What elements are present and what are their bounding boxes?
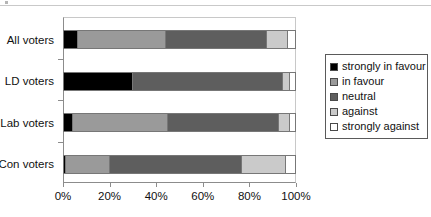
legend-swatch-icon — [330, 93, 338, 101]
legend-label: strongly against — [342, 120, 419, 133]
y-axis-tick — [58, 100, 63, 101]
x-axis-tick — [156, 183, 157, 187]
x-axis-tick — [296, 183, 297, 187]
chart-legend: strongly in favourin favourneutralagains… — [325, 54, 428, 139]
y-axis-tick — [58, 59, 63, 60]
y-axis-label: All voters — [0, 34, 54, 46]
legend-item: strongly against — [330, 119, 424, 134]
y-axis-label: Con voters — [0, 158, 54, 170]
bar-row — [63, 113, 296, 132]
bar-segment — [73, 114, 168, 131]
y-axis-label: Lab voters — [0, 117, 54, 129]
bar-segment — [267, 31, 288, 48]
legend-swatch-icon — [330, 63, 338, 71]
legend-item: neutral — [330, 89, 424, 104]
x-axis-tick — [110, 183, 111, 187]
legend-label: in favour — [342, 75, 384, 88]
stacked-bar-chart: All votersLD votersLab votersCon voters … — [0, 0, 431, 217]
bar-segment — [242, 156, 286, 173]
bar-segment — [64, 73, 133, 90]
bar-segment — [78, 31, 166, 48]
legend-label: against — [342, 105, 377, 118]
bar-segment — [168, 114, 279, 131]
x-axis-tick-label: 100% — [266, 190, 326, 203]
bar-row — [63, 72, 296, 91]
bar-segment — [279, 114, 291, 131]
bar-segment — [64, 31, 78, 48]
bar-segment — [290, 114, 295, 131]
legend-label: neutral — [342, 90, 376, 103]
bar-segment — [288, 31, 295, 48]
x-axis-tick — [203, 183, 204, 187]
stacked-bar — [63, 72, 296, 91]
bar-row — [63, 30, 296, 49]
y-axis-label: LD voters — [0, 75, 54, 87]
bar-segment — [283, 73, 290, 90]
bar-row — [63, 155, 296, 174]
legend-item: in favour — [330, 74, 424, 89]
legend-item: strongly in favour — [330, 59, 424, 74]
stacked-bar — [63, 155, 296, 174]
bar-segment — [286, 156, 295, 173]
legend-swatch-icon — [330, 108, 338, 116]
x-axis-tick — [63, 183, 64, 187]
x-axis-tick — [249, 183, 250, 187]
bar-segment — [66, 156, 110, 173]
bar-segment — [133, 73, 283, 90]
stacked-bar — [63, 113, 296, 132]
legend-label: strongly in favour — [342, 60, 426, 73]
bar-segment — [166, 31, 268, 48]
bar-segment — [290, 73, 295, 90]
legend-item: against — [330, 104, 424, 119]
bar-segment — [64, 114, 73, 131]
y-axis-tick — [58, 142, 63, 143]
legend-swatch-icon — [330, 123, 338, 131]
bar-segment — [110, 156, 242, 173]
legend-swatch-icon — [330, 78, 338, 86]
stacked-bar — [63, 30, 296, 49]
